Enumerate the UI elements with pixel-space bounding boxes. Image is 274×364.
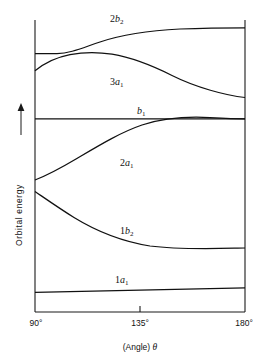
x-tick-label-90: 90° bbox=[30, 318, 43, 328]
curve-1b2 bbox=[35, 192, 245, 249]
orbital-curves bbox=[35, 28, 245, 293]
orbital-label-b1: b1 bbox=[137, 105, 146, 118]
y-axis-up-arrow-icon bbox=[18, 103, 25, 135]
orbital-label-2b2: 2b2 bbox=[110, 13, 124, 26]
orbital-label-2a1: 2a1 bbox=[120, 157, 134, 170]
walsh-diagram-svg: 2b2 3a1 b1 2a1 1b2 1a1 90° 135° 180° bbox=[0, 0, 274, 364]
x-tick-labels: 90° 135° 180° bbox=[30, 318, 253, 328]
plot-axes bbox=[35, 20, 245, 312]
curve-3a1 bbox=[35, 53, 245, 98]
curve-1a1 bbox=[35, 288, 245, 293]
orbital-label-1b2: 1b2 bbox=[120, 225, 134, 238]
x-tick-label-135: 135° bbox=[131, 318, 149, 328]
x-tick-label-180: 180° bbox=[235, 318, 253, 328]
curve-2b2 bbox=[35, 28, 245, 54]
y-axis-title: Orbital energy bbox=[14, 184, 24, 246]
orbital-label-group: 2b2 3a1 b1 2a1 1b2 1a1 bbox=[110, 13, 146, 287]
walsh-diagram-figure: 2b2 3a1 b1 2a1 1b2 1a1 90° 135° 180° bbox=[0, 0, 274, 364]
orbital-label-3a1: 3a1 bbox=[110, 76, 124, 89]
curve-2a1 bbox=[35, 117, 245, 180]
x-axis-title: (Angle) θ bbox=[123, 342, 158, 352]
orbital-label-1a1: 1a1 bbox=[115, 274, 129, 287]
